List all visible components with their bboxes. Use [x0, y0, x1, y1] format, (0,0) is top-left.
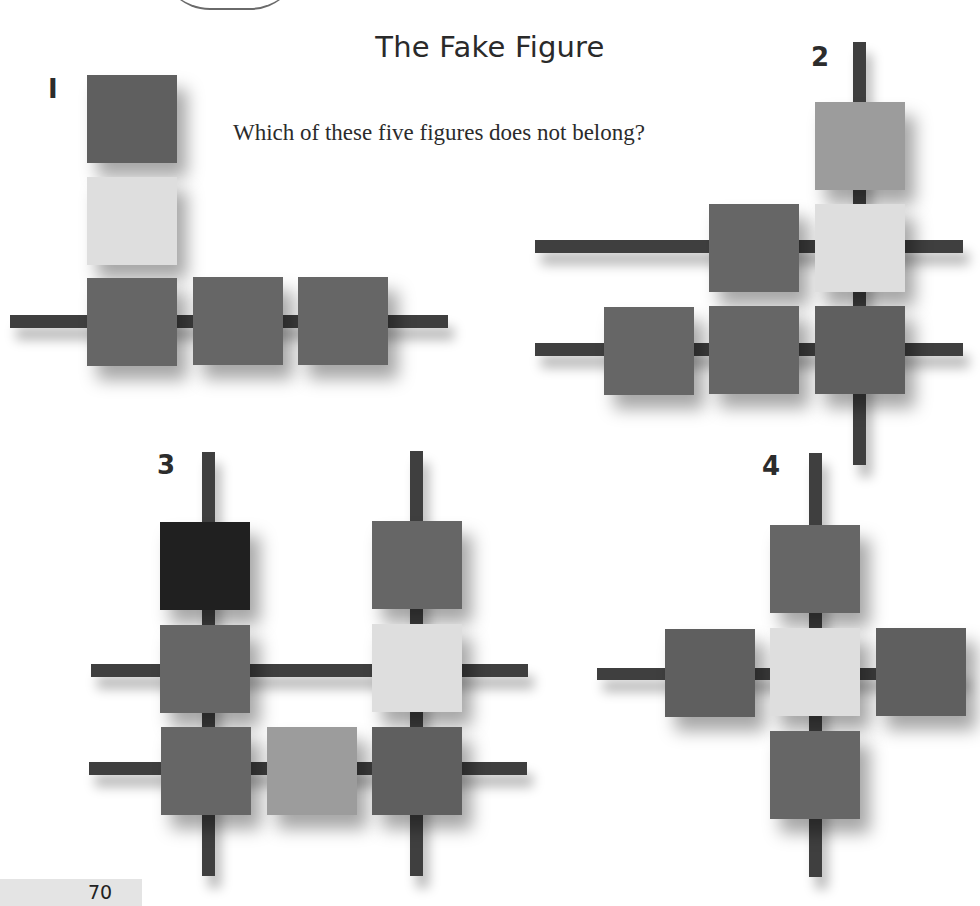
horizontal-bar [91, 664, 528, 677]
square-mid [87, 278, 177, 366]
square-black [160, 522, 250, 610]
figure-label-3: 3 [157, 452, 175, 478]
square-mid [770, 731, 860, 819]
square-light-mid [267, 727, 357, 815]
square-dark [372, 727, 462, 815]
square-light-mid [815, 102, 905, 190]
square-dark [665, 629, 755, 717]
square-mid [298, 277, 388, 365]
square-light [87, 177, 177, 265]
figure-label-1: I [48, 76, 58, 102]
square-light [770, 628, 860, 716]
decorative-arc [160, 0, 300, 10]
puzzle-question: Which of these five figures does not bel… [233, 120, 645, 146]
square-mid [193, 277, 283, 365]
page-number: 70 [88, 881, 112, 903]
square-dark [815, 306, 905, 394]
square-mid [161, 727, 251, 815]
page-number-box [0, 879, 142, 906]
figure-label-2: 2 [811, 44, 829, 70]
square-mid [160, 625, 250, 713]
square-light [372, 624, 462, 712]
square-dark [876, 628, 966, 716]
square-dark [87, 75, 177, 163]
square-mid [770, 525, 860, 613]
square-light [815, 204, 905, 292]
figure-label-4: 4 [762, 453, 780, 479]
square-mid [372, 521, 462, 609]
page-title: The Fake Figure [0, 30, 980, 64]
square-mid [709, 204, 799, 292]
square-mid [604, 307, 694, 395]
square-mid [709, 306, 799, 394]
